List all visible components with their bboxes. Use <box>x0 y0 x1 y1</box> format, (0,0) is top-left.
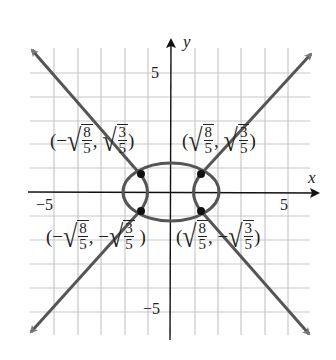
point-label-bottom-left: (−√85, −√35 ) <box>46 222 146 252</box>
y-axis-label: y <box>183 32 191 52</box>
x-tick-neg5: −5 <box>36 196 53 214</box>
point-label-top-left: (−√85, √35) <box>50 126 134 156</box>
graph-canvas <box>0 0 336 360</box>
x-axis-label: x <box>308 168 316 188</box>
point-label-bottom-right: (√85, −√35) <box>176 222 260 252</box>
y-tick-5: 5 <box>151 64 159 82</box>
point-label-top-right: (√85, √35) <box>182 126 256 156</box>
y-axis <box>170 40 171 340</box>
x-axis <box>28 192 318 193</box>
x-tick-5: 5 <box>280 196 288 214</box>
y-tick-neg5: −5 <box>143 300 160 318</box>
